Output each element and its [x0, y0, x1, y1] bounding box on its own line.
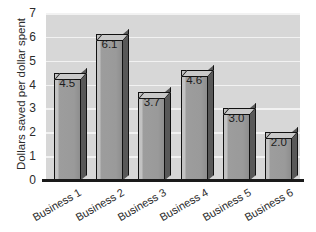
bar-front-face	[96, 34, 123, 180]
y-tick-label: 6	[6, 31, 36, 43]
bar-side-face	[208, 65, 214, 180]
x-axis-category-labels: Business 1Business 2Business 3Business 4…	[46, 182, 300, 232]
y-tick-label: 1	[6, 150, 36, 162]
bar-side-face	[250, 103, 256, 180]
y-axis-tick-labels: 01234567	[0, 0, 44, 232]
y-tick-label: 4	[6, 79, 36, 91]
y-tick-label: 2	[6, 126, 36, 138]
bar[interactable]: 4.5	[54, 73, 81, 180]
y-tick-label: 0	[6, 174, 36, 186]
bar-front-face	[223, 108, 250, 180]
y-tick-label: 3	[6, 102, 36, 114]
bar-front-face	[54, 73, 81, 180]
bar-chart: Dollars saved per dollar spent 01234567 …	[0, 0, 316, 232]
bar[interactable]: 3.7	[138, 92, 165, 180]
bar[interactable]: 6.1	[96, 34, 123, 180]
y-tick-label: 7	[6, 7, 36, 19]
bar-side-face	[123, 29, 129, 180]
bar-front-face	[265, 132, 292, 180]
bar-side-face	[165, 87, 171, 180]
plot-area: 4.56.13.74.63.02.0	[46, 13, 300, 180]
bar-front-face	[138, 92, 165, 180]
y-tick-label: 5	[6, 55, 36, 67]
bar[interactable]: 3.0	[223, 108, 250, 180]
bar-top-face	[181, 70, 214, 77]
bar[interactable]: 2.0	[265, 132, 292, 180]
bars-layer: 4.56.13.74.63.02.0	[46, 13, 300, 180]
bar-side-face	[81, 68, 87, 180]
bar[interactable]: 4.6	[181, 70, 208, 180]
bar-front-face	[181, 70, 208, 180]
bar-top-face	[54, 73, 87, 80]
